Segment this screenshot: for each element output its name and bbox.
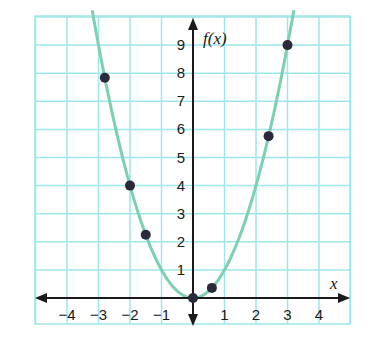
y-tick-label: 1 bbox=[177, 261, 185, 278]
y-tick-label: 9 bbox=[177, 36, 185, 53]
y-axis-up-arrow bbox=[188, 18, 198, 30]
x-tick-label: −2 bbox=[121, 306, 138, 323]
x-tick-label: −3 bbox=[90, 306, 107, 323]
y-tick-label: 3 bbox=[177, 205, 185, 222]
y-tick-label: 7 bbox=[177, 92, 185, 109]
x-axis-label: x bbox=[329, 274, 338, 293]
data-point bbox=[207, 283, 217, 293]
parabola-chart: −4−3−2−11234 123456789 x f(x) bbox=[0, 0, 371, 351]
y-tick-label: 2 bbox=[177, 233, 185, 250]
y-axis-label: f(x) bbox=[203, 29, 227, 48]
data-point bbox=[125, 181, 135, 191]
y-tick-label: 8 bbox=[177, 64, 185, 81]
x-tick-label: −4 bbox=[58, 306, 75, 323]
x-axis-right-arrow bbox=[338, 293, 350, 303]
y-tick-label: 6 bbox=[177, 120, 185, 137]
x-tick-label: 3 bbox=[283, 306, 291, 323]
y-tick-labels: 123456789 bbox=[177, 36, 185, 278]
x-axis-left-arrow bbox=[35, 293, 47, 303]
data-point bbox=[100, 73, 110, 83]
x-tick-label: 1 bbox=[220, 306, 228, 323]
y-tick-label: 5 bbox=[177, 149, 185, 166]
points-layer bbox=[100, 40, 293, 303]
data-point bbox=[264, 131, 274, 141]
y-tick-label: 4 bbox=[177, 177, 185, 194]
x-tick-label: −1 bbox=[153, 306, 170, 323]
data-point bbox=[188, 293, 198, 303]
data-point bbox=[141, 230, 151, 240]
x-tick-label: 2 bbox=[252, 306, 260, 323]
data-point bbox=[283, 40, 293, 50]
axes bbox=[35, 18, 350, 326]
x-tick-label: 4 bbox=[315, 306, 323, 323]
